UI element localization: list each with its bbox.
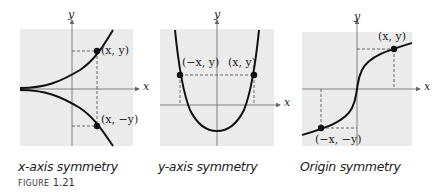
point-label: (x, −y) [101, 113, 138, 126]
caption-x-axis-symmetry: x-axis symmetry [18, 159, 118, 174]
point-label: (−x, y) [182, 56, 219, 69]
caption-y-axis-symmetry: y-axis symmetry [158, 159, 257, 174]
point-label: (x, y) [101, 44, 129, 57]
y-axis-label: y [68, 8, 74, 21]
figure-label-prefix: FIGURE [18, 179, 49, 188]
point-label: (x, y) [228, 56, 256, 69]
caption-origin-symmetry: Origin symmetry [300, 159, 401, 174]
point-label: (x, y) [378, 30, 406, 43]
x-axis-label: x [143, 80, 149, 93]
figure-label-number: 1.21 [53, 177, 75, 188]
x-axis-label: x [284, 96, 290, 109]
y-axis-label: y [354, 10, 360, 23]
point-label: (−x, −y) [315, 133, 361, 146]
figure-label: FIGURE 1.21 [18, 177, 75, 188]
y-axis-label: y [214, 8, 220, 21]
x-axis-label: x [424, 80, 430, 93]
